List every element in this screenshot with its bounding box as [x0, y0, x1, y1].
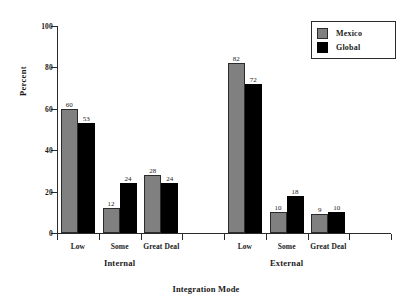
bar-external-great-deal-mexico: 9: [311, 214, 328, 233]
bar-external-some-global: 18: [287, 196, 304, 233]
legend-item-mexico: Mexico: [317, 26, 390, 40]
x-tick-mark: [391, 234, 392, 240]
legend-item-global: Global: [317, 40, 390, 54]
bar-internal-low-global: 53: [78, 123, 95, 233]
x-tick-mark: [224, 234, 225, 240]
x-category-label-external-great-deal: Great Deal: [308, 242, 350, 251]
bar-value-label: 9: [318, 206, 322, 214]
bar-value-label: 60: [66, 101, 73, 109]
legend-label-global: Global: [336, 43, 360, 52]
legend-swatch-mexico-icon: [317, 28, 328, 39]
y-axis-title: Percent: [18, 66, 28, 96]
y-tick-label: 80: [45, 63, 53, 72]
bar-internal-some-global: 24: [120, 183, 137, 233]
bar-value-label: 28: [149, 167, 156, 175]
y-tick-label: 60: [45, 104, 53, 113]
bar-value-label: 18: [292, 188, 299, 196]
legend-label-mexico: Mexico: [336, 29, 362, 38]
x-tick-mark: [57, 234, 58, 240]
bar-value-label: 12: [108, 200, 115, 208]
bar-value-label: 10: [333, 204, 340, 212]
bar-internal-great-deal-mexico: 28: [144, 175, 161, 233]
bar-external-great-deal-global: 10: [328, 212, 345, 233]
bar-value-label: 10: [275, 204, 282, 212]
x-group-label-external: External: [224, 258, 349, 268]
x-category-label-external-low: Low: [224, 242, 266, 251]
bar-value-label: 53: [83, 115, 90, 123]
x-group-label-internal: Internal: [57, 258, 182, 268]
x-axis-title: Integration Mode: [0, 284, 412, 294]
bar-internal-some-mexico: 12: [103, 208, 120, 233]
y-tick-label: 40: [45, 146, 53, 155]
x-tick-mark: [308, 234, 309, 240]
bar-internal-great-deal-global: 24: [161, 183, 178, 233]
x-tick-mark: [266, 234, 267, 240]
x-tick-mark: [141, 234, 142, 240]
bar-external-low-mexico: 82: [228, 63, 245, 233]
x-category-label-external-some: Some: [266, 242, 308, 251]
legend-swatch-global-icon: [317, 42, 328, 53]
bar-value-label: 24: [166, 175, 173, 183]
bar-internal-low-mexico: 60: [61, 109, 78, 233]
y-tick-label: 100: [41, 22, 53, 31]
y-tick-label: 20: [45, 187, 53, 196]
x-category-label-internal-low: Low: [57, 242, 99, 251]
x-tick-mark: [182, 234, 183, 240]
bar-chart: Percent Integration Mode 020406080100 60…: [0, 0, 412, 304]
bar-value-label: 24: [125, 175, 132, 183]
bar-external-low-global: 72: [245, 84, 262, 233]
x-category-label-internal-great-deal: Great Deal: [141, 242, 183, 251]
y-tick-label: 0: [49, 229, 53, 238]
bar-value-label: 72: [250, 76, 257, 84]
legend: Mexico Global: [311, 21, 396, 59]
x-category-label-internal-some: Some: [99, 242, 141, 251]
x-tick-mark: [349, 234, 350, 240]
bar-value-label: 82: [233, 55, 240, 63]
x-tick-mark: [99, 234, 100, 240]
bar-external-some-mexico: 10: [270, 212, 287, 233]
